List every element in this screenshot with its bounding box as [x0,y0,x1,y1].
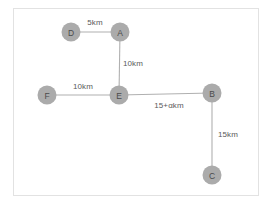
node-label-d: D [68,28,74,38]
edges-layer [47,32,212,175]
node-e[interactable]: E [110,86,129,105]
node-f[interactable]: F [38,86,57,105]
nodes-layer: DAEFBC [38,23,222,185]
node-label-e: E [116,91,122,101]
diagram-canvas: DAEFBC 5km10km10km15+αkm15km [0,0,273,210]
edge-label-a-e: 10km [123,59,143,68]
node-label-a: A [117,28,123,38]
node-b[interactable]: B [203,84,222,103]
node-label-b: B [209,89,215,99]
node-d[interactable]: D [62,23,81,42]
edge-label-d-a: 5km [87,18,103,27]
node-label-f: F [44,91,49,101]
edge-e-b [119,93,212,95]
edge-label-e-b: 15+αkm [154,101,184,110]
node-label-c: C [209,171,215,181]
graph-diagram: DAEFBC 5km10km10km15+αkm15km [0,0,273,210]
node-c[interactable]: C [203,166,222,185]
edge-label-b-c: 15km [218,130,238,139]
edge-labels-layer: 5km10km10km15+αkm15km [73,18,238,139]
edge-label-f-e: 10km [73,82,93,91]
node-a[interactable]: A [111,23,130,42]
